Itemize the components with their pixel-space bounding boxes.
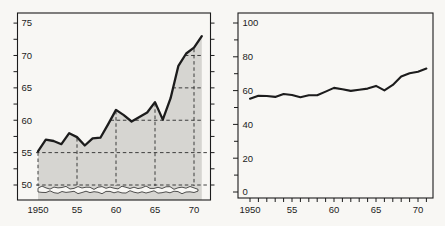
x-axis-labels: 195055606570 [27, 204, 199, 215]
svg-text:75: 75 [22, 17, 33, 28]
left-chart-plot: 505560657075195055606570 [0, 0, 222, 226]
svg-text:65: 65 [371, 204, 382, 215]
svg-text:80: 80 [243, 51, 254, 62]
y-axis-labels: 505560657075 [22, 17, 33, 190]
svg-text:50: 50 [22, 179, 33, 190]
svg-text:60: 60 [243, 85, 254, 96]
svg-text:70: 70 [189, 204, 200, 215]
x-axis [250, 198, 426, 202]
x-axis-labels: 195055606570 [239, 204, 423, 215]
svg-text:40: 40 [243, 119, 254, 130]
right-chart-plot: 020406080100195055606570 [222, 0, 445, 226]
plot-frame [238, 13, 433, 198]
svg-text:1950: 1950 [239, 204, 260, 215]
svg-text:70: 70 [413, 204, 424, 215]
svg-text:55: 55 [22, 147, 33, 158]
svg-text:70: 70 [22, 50, 33, 61]
shaded-area [38, 36, 202, 200]
y-axis-labels: 020406080100 [243, 17, 259, 197]
svg-text:20: 20 [243, 153, 254, 164]
data-line [250, 69, 426, 99]
right-chart-panel: 020406080100195055606570 [222, 0, 445, 226]
y-axis [233, 23, 238, 192]
svg-text:60: 60 [22, 115, 33, 126]
svg-text:100: 100 [243, 17, 259, 28]
svg-text:65: 65 [22, 82, 33, 93]
left-chart-panel: 505560657075195055606570 [0, 0, 222, 226]
svg-text:55: 55 [72, 204, 83, 215]
svg-text:60: 60 [329, 204, 340, 215]
svg-text:60: 60 [111, 204, 122, 215]
svg-text:65: 65 [150, 204, 161, 215]
svg-text:0: 0 [243, 186, 248, 197]
svg-text:55: 55 [287, 204, 298, 215]
two-scale-comparison-figure: 505560657075195055606570 020406080100195… [0, 0, 445, 226]
svg-text:1950: 1950 [27, 204, 48, 215]
